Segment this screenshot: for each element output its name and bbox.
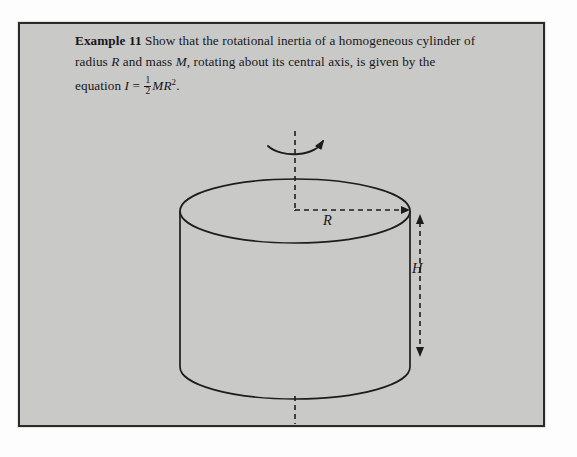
radius-arrowhead bbox=[401, 206, 410, 214]
equation-equals-sign: = bbox=[129, 79, 143, 94]
figure-panel: Example 11 Show that the rotational iner… bbox=[18, 22, 545, 427]
example-line2-post: , rotating about its central axis, bbox=[187, 54, 353, 69]
rotation-direction-arc bbox=[268, 141, 323, 154]
cylinder-bottom-arc bbox=[180, 367, 410, 399]
radius-label-R: R bbox=[323, 212, 332, 229]
rotation-direction-arrowhead bbox=[316, 141, 323, 149]
equation-expression-MR: MR bbox=[152, 79, 171, 94]
example-line1-text: Show that the rotational inertia of a ho… bbox=[142, 33, 414, 48]
equation-period: . bbox=[176, 79, 179, 94]
height-arrowhead-bottom bbox=[416, 347, 424, 357]
example-line2-mid: and mass bbox=[119, 54, 175, 69]
example-caption: Example 11 Show that the rotational iner… bbox=[75, 31, 480, 97]
page-canvas: Example 11 Show that the rotational iner… bbox=[0, 0, 577, 457]
fraction-denominator: 2 bbox=[144, 87, 151, 97]
cylinder-top-ellipse bbox=[180, 179, 410, 243]
fraction-one-half: 12 bbox=[144, 76, 151, 96]
variable-M-inline: M bbox=[176, 54, 187, 69]
example-number-label: Example 11 bbox=[75, 33, 142, 48]
height-label-H: H bbox=[412, 260, 422, 277]
height-arrowhead-top bbox=[416, 214, 424, 224]
